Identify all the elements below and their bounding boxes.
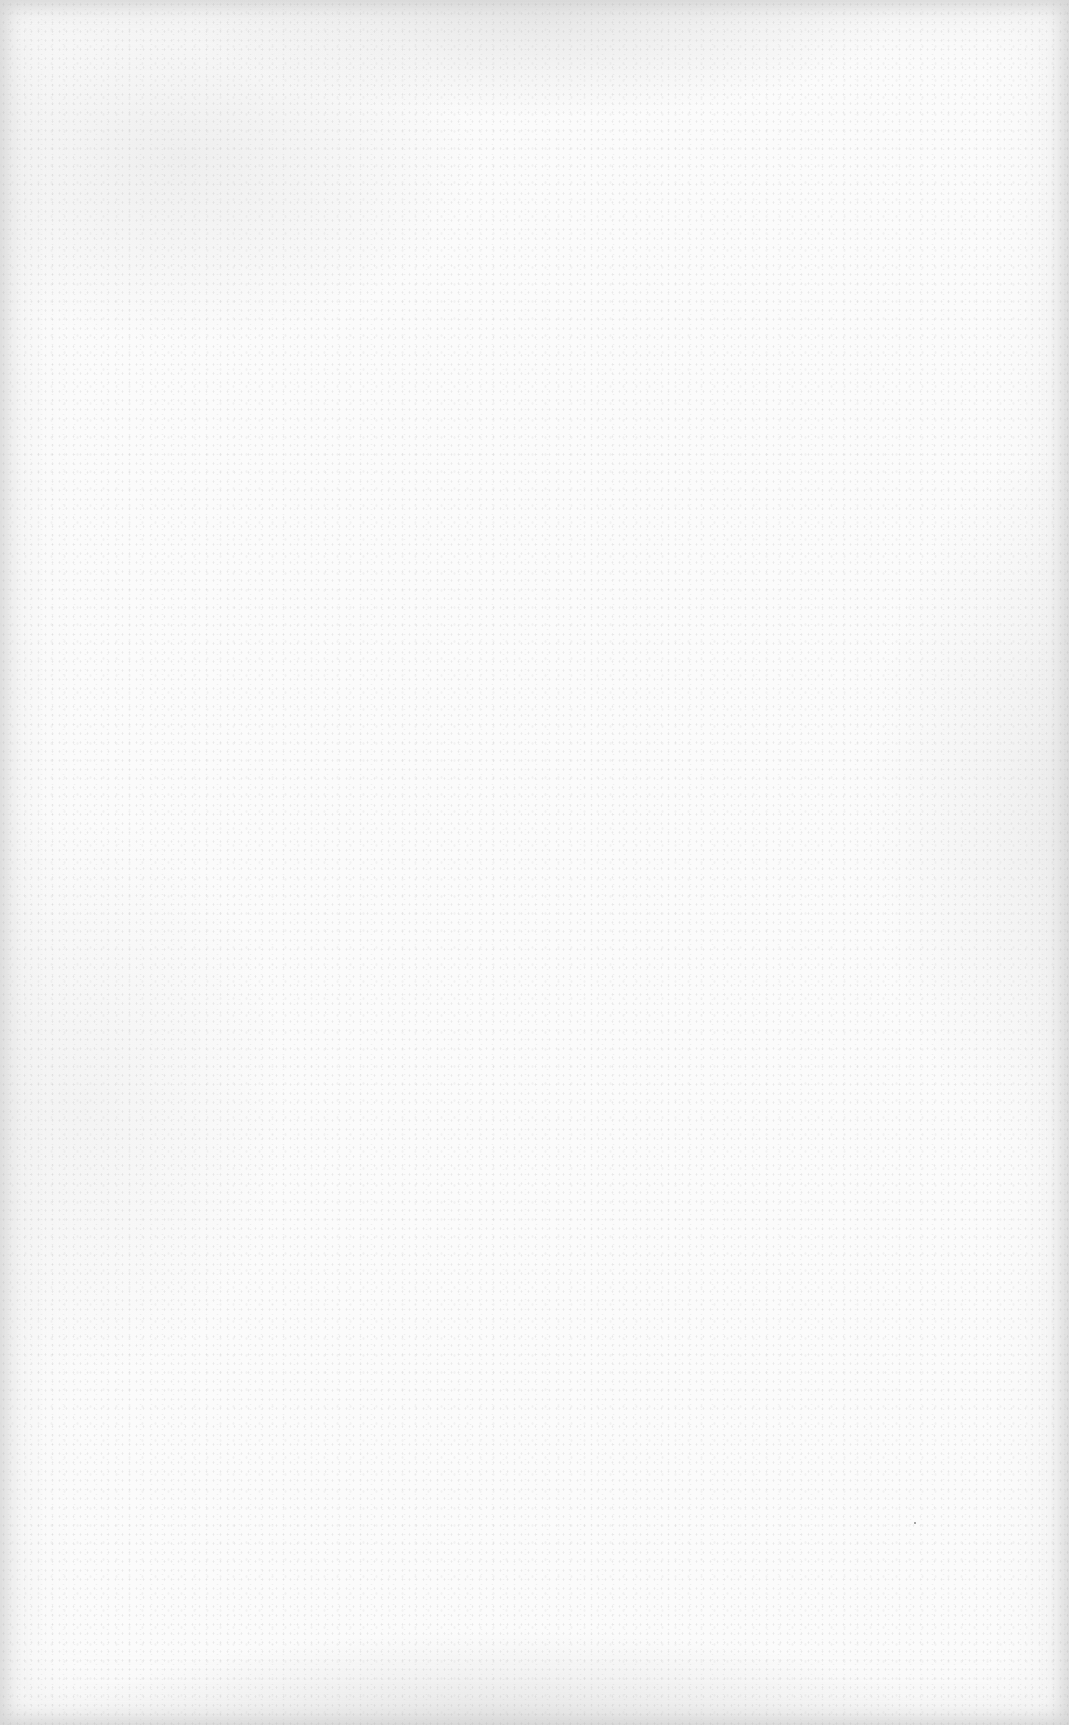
paper-texture-mottle bbox=[0, 0, 1069, 1725]
blank-paper-page bbox=[0, 0, 1069, 1725]
paper-grain-speckle bbox=[0, 0, 1069, 1725]
scan-speck bbox=[914, 1522, 916, 1524]
